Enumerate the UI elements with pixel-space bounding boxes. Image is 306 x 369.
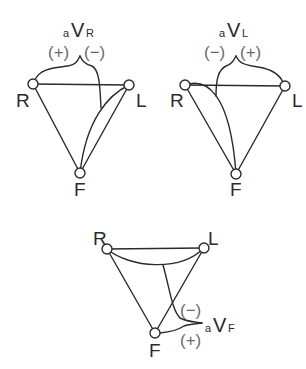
wire-negative-lf xyxy=(80,56,101,108)
triangle-edge-r-l xyxy=(107,248,204,249)
electrode-f xyxy=(231,169,241,179)
wire-negative-rf xyxy=(216,56,236,96)
label-f: F xyxy=(230,179,242,200)
label-l: L xyxy=(292,90,303,111)
label-l: L xyxy=(136,90,147,111)
electrode-f xyxy=(150,328,160,338)
lead-main: V xyxy=(227,19,241,41)
triangle-edge-l-f xyxy=(80,85,129,173)
electrode-f xyxy=(75,168,85,178)
diagram-avl: R L F a V L (−) (+) xyxy=(170,19,303,200)
lead-main: V xyxy=(71,19,85,41)
augmented-limb-leads-figure: R L F a V R (+) (−) R L F a V L (−) (+) xyxy=(0,0,306,369)
label-r: R xyxy=(16,90,30,111)
label-r: R xyxy=(170,90,184,111)
polarity-positive: (+) xyxy=(180,331,201,350)
polarity-negative: (−) xyxy=(204,43,225,62)
lead-sub: R xyxy=(86,27,94,39)
triangle-edge-l-f xyxy=(236,86,285,174)
electrode-r xyxy=(180,80,190,90)
polarity-negative: (−) xyxy=(180,301,201,320)
wire-r-l-inner xyxy=(107,248,204,265)
diagram-avf: R L F a V F (−) (+) xyxy=(93,228,235,361)
triangle-edge-l-f xyxy=(155,248,204,333)
polarity-positive: (+) xyxy=(48,43,69,62)
triangle-edge-r-l xyxy=(33,84,129,85)
lead-prefix: a xyxy=(63,27,70,39)
diagram-avr: R L F a V R (+) (−) xyxy=(16,19,147,200)
lead-main: V xyxy=(213,314,227,336)
lead-sub: L xyxy=(242,27,248,39)
label-l: L xyxy=(208,228,219,249)
electrode-l xyxy=(124,80,134,90)
lead-prefix: a xyxy=(205,322,212,334)
lead-sub: F xyxy=(228,322,235,334)
label-f: F xyxy=(149,340,161,361)
electrode-l xyxy=(280,81,290,91)
electrode-r xyxy=(28,79,38,89)
triangle-edge-r-f xyxy=(33,84,80,173)
polarity-positive: (+) xyxy=(240,43,261,62)
triangle-edge-r-l xyxy=(185,85,285,86)
triangle-edge-r-f xyxy=(185,85,236,174)
polarity-negative: (−) xyxy=(84,43,105,62)
label-f: F xyxy=(74,179,86,200)
label-r: R xyxy=(93,228,107,249)
lead-prefix: a xyxy=(219,27,226,39)
